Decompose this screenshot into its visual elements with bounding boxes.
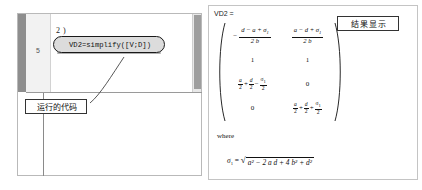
- editor-scrollbar-thumb[interactable]: [194, 15, 201, 89]
- matrix-cell-r1c2: a − d + σ1 2 b: [291, 27, 325, 44]
- matrix-r1c1-sign: −: [233, 32, 237, 40]
- sigma-lhs-subscript: 1: [231, 161, 233, 166]
- annotation-running-code: 运行的代码: [25, 99, 87, 114]
- matrix-r1c2-fraction: a − d + σ1 2 b: [292, 27, 324, 44]
- annotation-running-code-text: 运行的代码: [26, 100, 88, 115]
- annotation-result-display: 结果显示: [337, 16, 399, 31]
- result-variable-label: VD2 =: [214, 10, 234, 17]
- matrix-r3c1-frac-d: d2: [249, 78, 254, 91]
- step-number-label: 2 ): [56, 26, 66, 35]
- matrix-cell-r2c2: 1: [306, 56, 310, 64]
- code-line-text: VD2=simplify([V;D]): [54, 37, 166, 54]
- matrix-r3c1-plus: +: [244, 80, 248, 88]
- matrix-r1c2-denominator: 2 b: [301, 38, 313, 45]
- matrix-cell-r4c2: a2 + d2 + σ12: [292, 101, 323, 116]
- matrix-r3c1-frac-a: a2: [238, 78, 243, 91]
- matrix-r1c1-fraction: d − a + σ1 2 b: [239, 27, 271, 44]
- matrix-r3c1-frac-sigma: σ12: [260, 77, 267, 92]
- sigma-definition: σ1 = √ a² − 2 a d + 4 b² + d²: [227, 156, 314, 167]
- sigma-equals: =: [235, 156, 239, 165]
- square-root-expression: √ a² − 2 a d + 4 b² + d²: [241, 156, 314, 167]
- radicand: a² − 2 a d + 4 b² + d²: [246, 157, 314, 167]
- matrix-r1c1-num-subscript: 1: [267, 31, 269, 36]
- matrix-grid: − d − a + σ1 2 b a − d + σ1 2 b 1 1: [225, 24, 335, 120]
- annotation-result-display-text: 结果显示: [338, 17, 400, 32]
- editor-scrollbar[interactable]: [192, 14, 201, 92]
- matrix-r1c1-denominator: 2 b: [249, 38, 261, 45]
- screenshot-root: 5 2 ) VD2=simplify([V;D]) 运行的代码 VD2 = −: [0, 0, 422, 190]
- highlighted-code-line[interactable]: VD2=simplify([V;D]): [53, 36, 165, 53]
- matrix-r4c2-frac-sigma: σ12: [315, 101, 322, 116]
- matrix-cell-r1c1: − d − a + σ1 2 b: [233, 27, 272, 44]
- editor-line-number: 5: [26, 47, 50, 54]
- matrix-r4c2-plus-2: +: [310, 104, 314, 112]
- matrix-cell-r3c2: 0: [306, 80, 310, 88]
- matrix-r4c2-plus-1: +: [299, 104, 303, 112]
- matrix-r3c1-minus: −: [255, 80, 259, 88]
- matrix-r4c2-frac-a: a2: [293, 102, 298, 115]
- result-matrix: − d − a + σ1 2 b a − d + σ1 2 b 1 1: [215, 22, 345, 122]
- where-label: where: [217, 132, 234, 140]
- matrix-cell-r2c1: 1: [251, 56, 255, 64]
- annotation-leader-line: [20, 55, 150, 105]
- matrix-cell-r3c1: a2 + d2 − σ12: [237, 77, 268, 92]
- matrix-r4c2-frac-d: d2: [304, 102, 309, 115]
- matrix-cell-r4c1: 0: [251, 104, 255, 112]
- matrix-r1c2-num-subscript: 1: [319, 31, 321, 36]
